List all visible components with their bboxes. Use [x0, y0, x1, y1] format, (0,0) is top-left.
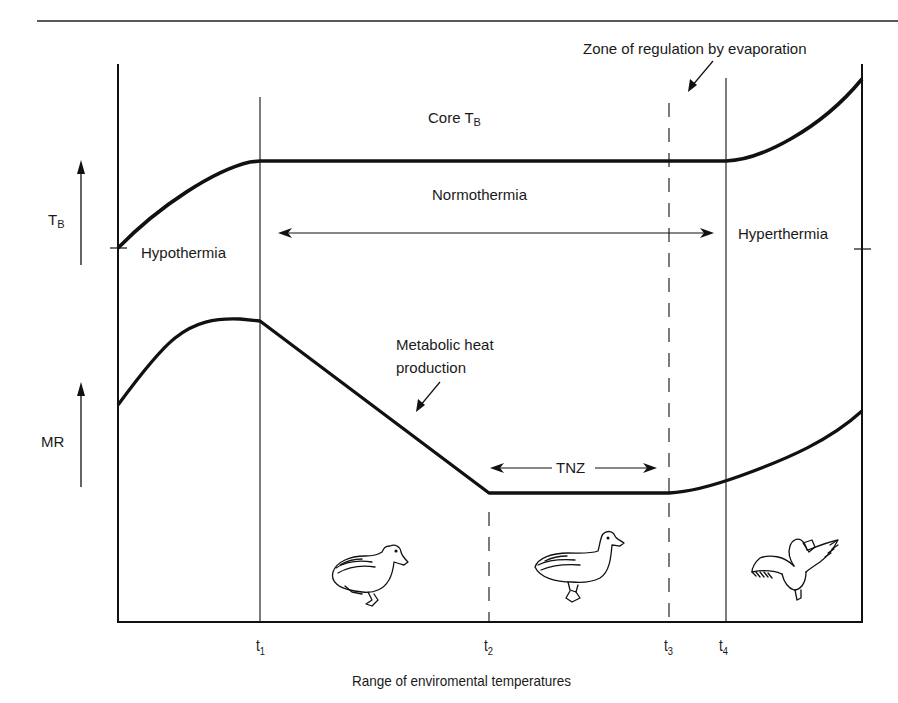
x-tick-t1: t1	[256, 638, 265, 657]
normothermia-label: Normothermia	[432, 187, 527, 202]
core-tb-label: Core TB	[428, 110, 481, 128]
x-tick-t3-sub: 3	[668, 645, 673, 657]
x-tick-t2-sub: 2	[488, 645, 493, 657]
hypothermia-label: Hypothermia	[141, 245, 226, 260]
tb-axis-subscript: B	[57, 218, 64, 230]
metabolic-heat-label-line2: production	[396, 360, 466, 375]
duck-huddled-illustration	[332, 545, 408, 606]
tb-axis-arrow	[77, 160, 85, 265]
metabolic-pointer-arrow	[416, 382, 440, 412]
evaporation-zone-label: Zone of regulation by evaporation	[583, 41, 806, 56]
mr-axis-label: MR	[41, 434, 64, 449]
tb-axis-text: T	[48, 211, 57, 228]
metabolic-heat-label-line1: Metabolic heat	[396, 337, 494, 352]
x-axis-label: Range of enviromental temperatures	[352, 673, 571, 688]
x-tick-t1-sub: 1	[260, 645, 265, 657]
duck-standing-illustration	[535, 532, 624, 602]
tb-axis-label: TB	[48, 212, 65, 230]
x-tick-t2: t2	[484, 638, 493, 657]
core-tb-curve	[118, 79, 862, 248]
core-tb-text: Core T	[428, 109, 474, 126]
normothermia-range-arrow	[278, 228, 714, 238]
tnz-label: TNZ	[556, 460, 585, 475]
duck-panting-illustration	[752, 539, 838, 600]
core-tb-subscript: B	[474, 116, 481, 128]
mr-axis-arrow	[77, 382, 85, 487]
x-tick-t4: t4	[719, 638, 728, 657]
evaporation-pointer-arrow	[688, 61, 713, 92]
x-tick-t3: t3	[664, 638, 673, 657]
x-tick-t4-sub: 4	[723, 645, 728, 657]
hyperthermia-label: Hyperthermia	[738, 226, 828, 241]
